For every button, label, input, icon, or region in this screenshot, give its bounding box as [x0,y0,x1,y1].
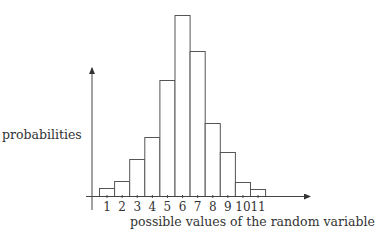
histogram-bars [100,16,266,197]
x-tick-label: 2 [118,200,126,214]
y-axis-label: probabilities [2,127,82,142]
x-tick-label: 10 [235,200,250,214]
x-tick-label: 11 [250,200,265,214]
x-tick-label: 4 [149,200,157,214]
histogram-bar [190,52,205,197]
histogram-bar [115,182,130,197]
x-tick-label: 3 [133,200,141,214]
histogram-bar [205,124,220,197]
histogram-bar [220,153,235,197]
x-tick-label: 1 [103,200,111,214]
x-tick-label: 6 [179,200,187,214]
histogram-bar [145,138,160,197]
x-axis-label: possible values of the random variable [130,214,375,229]
x-tick-label: 8 [209,200,217,214]
x-tick-label: 9 [224,200,232,214]
histogram-bar [235,183,250,197]
histogram-bar [175,16,190,197]
x-tick-label: 5 [164,200,172,214]
histogram-bar [160,81,175,197]
x-tick-label: 7 [194,200,202,214]
histogram-bar [130,160,145,197]
